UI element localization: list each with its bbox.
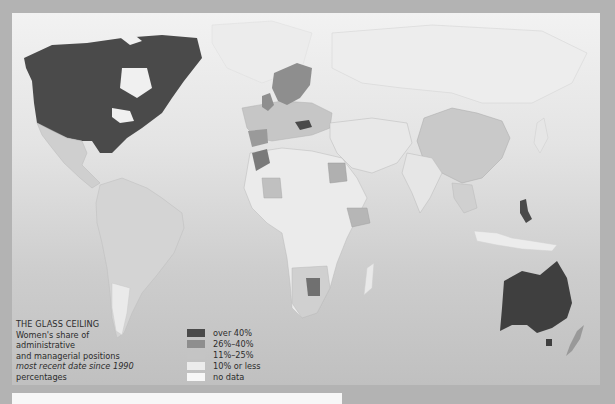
legend-swatch: [187, 362, 205, 370]
russia: [332, 25, 587, 103]
legend-swatch: [187, 373, 205, 381]
legend-label: 26%–40%: [213, 339, 254, 349]
legend-label: 11%–25%: [213, 350, 254, 360]
legend-label: no data: [213, 372, 244, 382]
legend-swatch: [187, 340, 205, 348]
new-zealand: [566, 325, 584, 356]
legend-swatch: [187, 329, 205, 337]
caption-units: percentages: [16, 372, 134, 383]
botswana: [306, 278, 320, 296]
australia: [500, 261, 572, 333]
legend-label: over 40%: [213, 328, 252, 338]
bottom-strip: [12, 393, 342, 404]
legend-item: 10% or less: [187, 360, 261, 371]
japan: [534, 118, 548, 153]
map-title: THE GLASS CEILING: [16, 319, 134, 330]
iberia: [248, 129, 268, 147]
egypt-sudan: [328, 163, 347, 183]
legend-item: over 40%: [187, 327, 261, 338]
tasmania: [546, 339, 552, 346]
legend-item: no data: [187, 371, 261, 382]
legend-item: 26%–40%: [187, 338, 261, 349]
madagascar: [364, 263, 374, 295]
south-america: [96, 178, 184, 338]
legend-swatch: [187, 351, 205, 359]
caption-line: administrative: [16, 340, 134, 351]
caption-line: Women's share of: [16, 330, 134, 341]
map-caption: THE GLASS CEILING Women's share of admin…: [16, 319, 134, 383]
philippines: [520, 199, 532, 223]
caption-line: and managerial positions: [16, 351, 134, 362]
map-legend: over 40% 26%–40% 11%–25% 10% or less no …: [187, 327, 261, 382]
mali: [262, 178, 282, 198]
caption-date-note: most recent date since 1990: [16, 361, 134, 372]
legend-item: 11%–25%: [187, 349, 261, 360]
indonesia: [474, 231, 557, 251]
legend-label: 10% or less: [213, 361, 261, 371]
southeast-asia: [452, 183, 477, 213]
